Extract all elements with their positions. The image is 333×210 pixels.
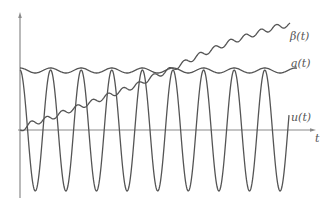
a-label: a(t) [291,57,311,70]
a-curve [20,68,297,73]
beta-label: β(t) [289,30,309,43]
beta-curve [20,23,290,131]
t-axis-label: t [315,132,320,145]
signal-diagram: β(t) a(t) u(t) t [0,0,333,210]
y-axis-arrow-icon [18,12,22,18]
u-label: u(t) [291,111,311,124]
